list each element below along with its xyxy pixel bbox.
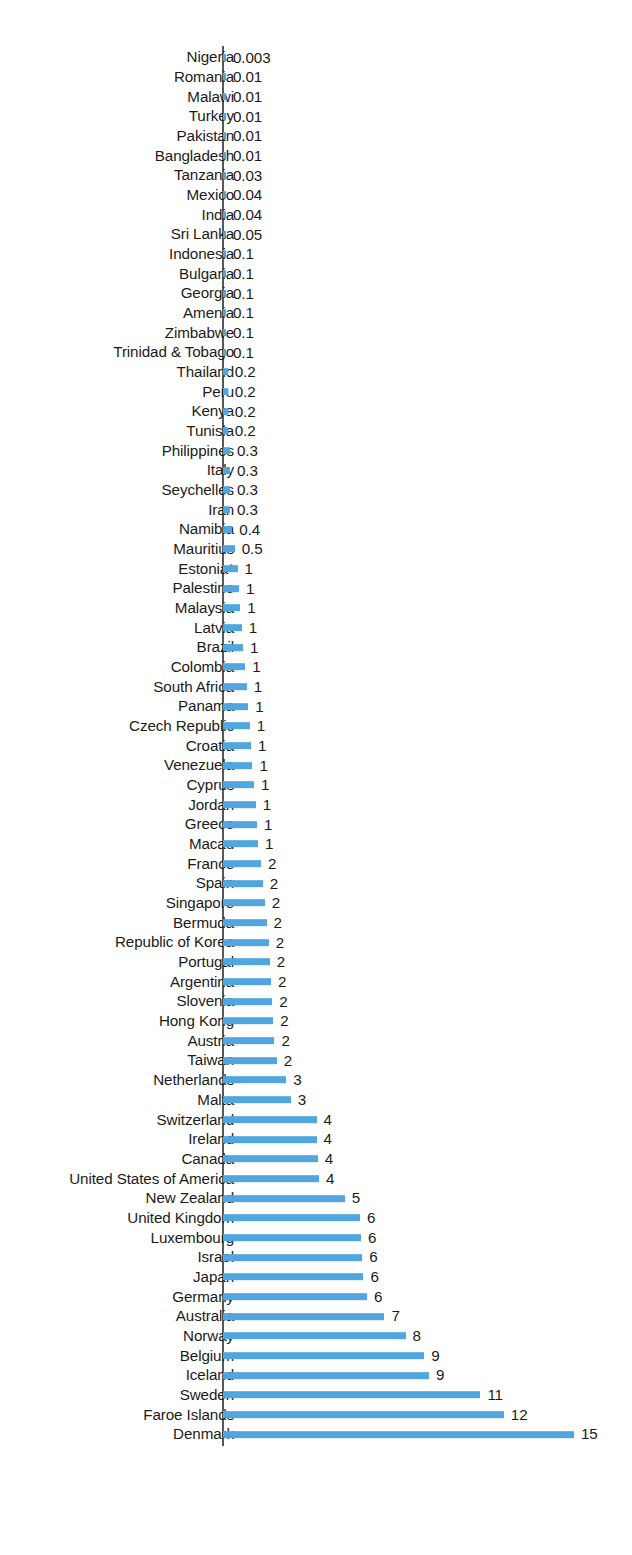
bar-row: Malta3 [0,1090,632,1110]
bar-row: Kenya0.2 [0,402,632,422]
category-label: New Zealand [146,1191,234,1206]
value-label: 2 [276,935,284,950]
bar [223,388,228,395]
value-label: 1 [263,797,271,812]
bar-and-value: 2 [223,1031,290,1051]
value-label: 1 [252,659,260,674]
bar [223,939,269,946]
bar-row: Pakistan0.01 [0,126,632,146]
bar-and-value: 0.1 [223,343,254,363]
bar-row: Nigeria0.003 [0,48,632,68]
bar [223,978,271,985]
bar [223,1155,318,1162]
value-label: 3 [293,1073,301,1088]
value-label: 1 [261,778,269,793]
value-label: 0.1 [233,345,254,360]
bar [223,290,226,297]
value-label: 0.5 [242,541,263,556]
bar [223,1214,360,1221]
value-label: 1 [255,699,263,714]
value-label: 2 [268,856,276,871]
bar [223,93,226,100]
value-label: 11 [487,1387,503,1402]
bar-row: Luxembourg6 [0,1228,632,1248]
bar-row: Ireland4 [0,1129,632,1149]
bar-row: Taiwan2 [0,1051,632,1071]
bar-row: Iceland9 [0,1365,632,1385]
value-label: 1 [259,758,267,773]
value-label: 0.3 [237,482,258,497]
bar [223,152,226,159]
bar-row: Turkey0.01 [0,107,632,127]
bar-row: India0.04 [0,205,632,225]
bar-row: Norway8 [0,1326,632,1346]
bar-row: Indonesia0.1 [0,244,632,264]
value-label: 0.1 [233,325,254,340]
bar-row: United States of America4 [0,1169,632,1189]
bar-and-value: 0.01 [223,107,262,127]
category-label: Czech Republic [129,718,234,733]
bar-and-value: 0.1 [223,284,254,304]
bar-and-value: 0.03 [223,166,262,186]
bar [223,506,230,513]
bar-row: Namibia0.4 [0,520,632,540]
bar [223,251,226,258]
value-label: 1 [247,600,255,615]
bar-row: Cyprus1 [0,775,632,795]
bar [223,782,254,789]
bar-and-value: 0.04 [223,185,262,205]
value-label: 0.2 [235,384,256,399]
bar [223,1332,406,1339]
bar-and-value: 1 [223,716,265,736]
bar [223,880,263,887]
bar-and-value: 2 [223,992,287,1012]
bar-and-value: 1 [223,579,254,599]
bar-row: Australia7 [0,1306,632,1326]
bar-row: Brazil1 [0,638,632,658]
bar-and-value: 0.5 [223,539,263,559]
bar-and-value: 9 [223,1346,440,1366]
bar-and-value: 7 [223,1306,400,1326]
value-label: 1 [258,738,266,753]
bar-and-value: 1 [223,618,257,638]
bar [223,1391,480,1398]
value-label: 1 [254,679,262,694]
value-label: 2 [284,1053,292,1068]
value-label: 6 [374,1289,382,1304]
bar-row: United Kingdom6 [0,1208,632,1228]
bar-and-value: 1 [223,559,253,579]
bar-row: Portugal2 [0,952,632,972]
value-label: 15 [581,1427,598,1442]
bar [223,624,242,631]
value-label: 4 [326,1171,334,1186]
bar-row: Estonia*1 [0,559,632,579]
bar-and-value: 9 [223,1365,444,1385]
bar-row: Spain2 [0,874,632,894]
bar [223,1037,274,1044]
bar-row: Colombia1 [0,657,632,677]
bar-row: Slovenia2 [0,992,632,1012]
bar-and-value: 1 [223,677,262,697]
bar-row: Romania0.01 [0,67,632,87]
bar-row: Tanzania0.03 [0,166,632,186]
category-label: Republic of Korea [115,935,234,950]
bar [223,742,251,749]
bar-and-value: 3 [223,1090,306,1110]
value-label: 0.2 [235,423,256,438]
bar-and-value: 6 [223,1267,379,1287]
plot-area: Nigeria0.003Romania0.01Malawi0.01Turkey0… [0,0,632,1555]
bar-row: Germany6 [0,1287,632,1307]
value-label: 2 [279,994,287,1009]
bar-and-value: 0.3 [223,480,258,500]
bar-row: Latvia1 [0,618,632,638]
bar-row: Jordan1 [0,795,632,815]
value-label: 0.1 [233,266,254,281]
bar [223,1018,273,1025]
bar-row: Japan6 [0,1267,632,1287]
value-label: 0.01 [233,89,262,104]
bar-row: Austria2 [0,1031,632,1051]
bar-and-value: 2 [223,952,285,972]
bar-and-value: 2 [223,1011,289,1031]
bar-and-value: 0.4 [223,520,260,540]
bar-and-value: 1 [223,697,264,717]
